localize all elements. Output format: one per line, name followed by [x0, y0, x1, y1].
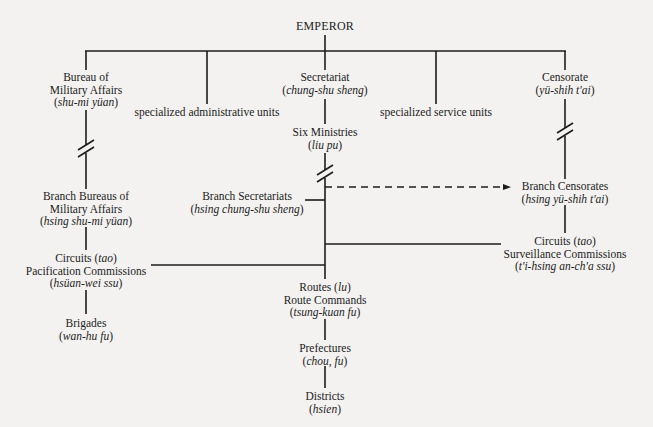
node-line: Pacification Commissions — [26, 265, 146, 278]
node-prefectures: Prefectures (chou, fu) — [299, 342, 351, 367]
node-specialized-service-units: specialized service units — [380, 106, 492, 119]
node-romanized: (chou, fu) — [299, 355, 351, 368]
romanized-term: chung-shu sheng — [286, 84, 364, 96]
circuits-label: Circuits — [534, 235, 570, 247]
node-line: Six Ministries — [293, 126, 358, 139]
node-line: Branch Censorates — [522, 180, 609, 193]
node-line: Districts — [306, 390, 345, 403]
node-line: Bureau of — [50, 71, 122, 84]
node-romanized: (shu-mi yüan) — [50, 96, 122, 109]
node-line: Route Commands — [284, 294, 367, 307]
node-romanized: (wan-hu fu) — [59, 330, 113, 343]
node-six-ministries: Six Ministries (liu pu) — [293, 126, 358, 151]
node-romanized: (tsung-kuan fu) — [284, 306, 367, 319]
node-bureau-military-affairs: Bureau of Military Affairs (shu-mi yüan) — [50, 71, 122, 109]
node-routes: Routes (lu) Route Commands (tsung-kuan f… — [284, 281, 367, 319]
node-line: specialized administrative units — [135, 106, 280, 119]
node-specialized-administrative-units: specialized administrative units — [135, 106, 280, 119]
node-line: Circuits (tao) — [26, 252, 146, 265]
romanized-term: shu-mi yüan — [58, 96, 115, 108]
node-romanized: (liu pu) — [293, 139, 358, 152]
romanized-term: tsung-kuan fu — [294, 306, 357, 318]
node-branch-censorates: Branch Censorates (hsing yü-shih t'ai) — [522, 180, 609, 205]
node-line: Branch Bureaus of — [40, 190, 132, 203]
arrowhead — [503, 184, 511, 190]
romanized-term: hsing chung-shu sheng — [194, 203, 299, 215]
node-circuits-surveillance: Circuits (tao) Surveillance Commissions … — [504, 235, 627, 273]
node-circuits-pacification: Circuits (tao) Pacification Commissions … — [26, 252, 146, 290]
node-line: Military Affairs — [40, 203, 132, 216]
routes-label: Routes — [299, 281, 331, 293]
emperor-label: EMPEROR — [296, 20, 354, 33]
node-line: Branch Secretariats — [190, 190, 303, 203]
node-romanized: (t'i-hsing an-ch'a ssu) — [504, 260, 627, 273]
romanized-term: t'i-hsing an-ch'a ssu — [519, 260, 611, 272]
node-districts: Districts (hsien) — [306, 390, 345, 415]
romanized-term: tao — [98, 252, 113, 264]
romanized-term: lu — [338, 281, 347, 293]
romanized-term: hsing shu-mi yüan — [44, 215, 128, 227]
romanized-term: wan-hu fu — [63, 330, 109, 342]
node-romanized: (hsing shu-mi yüan) — [40, 215, 132, 228]
node-branch-secretariats: Branch Secretariats (hsing chung-shu she… — [190, 190, 303, 215]
node-romanized: (hsüan-wei ssu) — [26, 277, 146, 290]
node-line: Military Affairs — [50, 84, 122, 97]
romanized-term: hsien — [313, 403, 337, 415]
node-romanized: (hsien) — [306, 403, 345, 416]
node-romanized: (yü-shih t'ai) — [535, 84, 594, 97]
node-branch-bureaus: Branch Bureaus of Military Affairs (hsin… — [40, 190, 132, 228]
romanized-term: hsing yü-shih t'ai — [525, 193, 604, 205]
node-line: Surveillance Commissions — [504, 248, 627, 261]
node-brigades: Brigades (wan-hu fu) — [59, 317, 113, 342]
node-line: Secretariat — [282, 71, 367, 84]
node-secretariat: Secretariat (chung-shu sheng) — [282, 71, 367, 96]
romanized-term: yü-shih t'ai — [539, 84, 590, 96]
node-censorate: Censorate (yü-shih t'ai) — [535, 71, 594, 96]
node-line: Routes (lu) — [284, 281, 367, 294]
circuits-label: Circuits — [55, 252, 91, 264]
node-line: Prefectures — [299, 342, 351, 355]
node-line: Brigades — [59, 317, 113, 330]
node-emperor: EMPEROR — [296, 20, 354, 33]
node-romanized: (hsing yü-shih t'ai) — [522, 193, 609, 206]
romanized-term: hsüan-wei ssu — [54, 277, 119, 289]
node-romanized: (chung-shu sheng) — [282, 84, 367, 97]
romanized-term: tao — [577, 235, 592, 247]
node-romanized: (hsing chung-shu sheng) — [190, 203, 303, 216]
romanized-term: chou, fu — [306, 355, 343, 367]
romanized-term: liu pu — [312, 139, 339, 151]
node-line: specialized service units — [380, 106, 492, 119]
node-line: Circuits (tao) — [504, 235, 627, 248]
node-line: Censorate — [535, 71, 594, 84]
